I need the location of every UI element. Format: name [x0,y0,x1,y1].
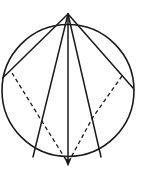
chord-apex-to-right-base [68,14,101,157]
chord-apex-to-left-rim [3,14,68,78]
figure-canvas [0,0,142,194]
chord-apex-to-right-rim [68,14,133,88]
geometric-figure [0,0,142,194]
